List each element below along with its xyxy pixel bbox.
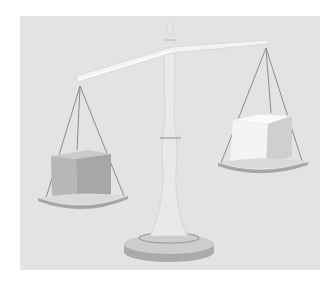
balance-scale-illustration [0, 0, 336, 288]
scale-base [124, 233, 214, 262]
left-pan [38, 193, 128, 209]
